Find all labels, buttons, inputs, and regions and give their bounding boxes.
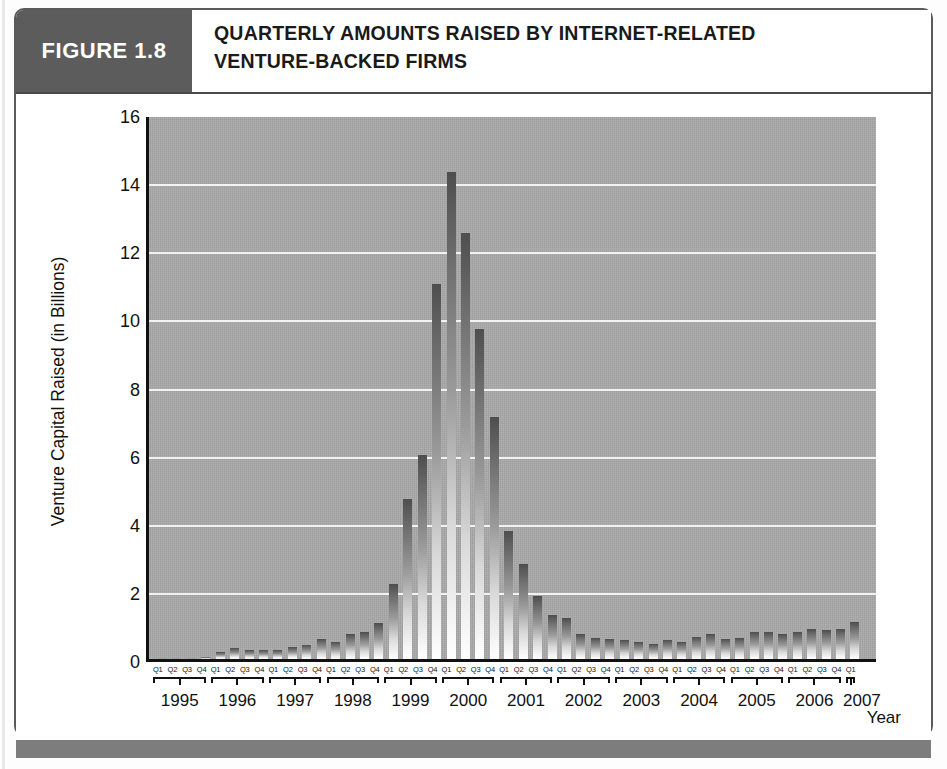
quarter-label: Q2 bbox=[165, 665, 180, 676]
quarter-label: Q3 bbox=[584, 665, 599, 676]
year-group-2007: Q12007 bbox=[843, 665, 858, 711]
bar bbox=[216, 652, 225, 659]
figure-title-line-1: QUARTERLY AMOUNTS RAISED BY INTERNET-REL… bbox=[214, 19, 917, 47]
year-label: 2000 bbox=[439, 691, 497, 711]
quarter-label: Q1 bbox=[381, 665, 396, 676]
quarter-label: Q1 bbox=[612, 665, 627, 676]
quarter-label: Q2 bbox=[338, 665, 353, 676]
year-label: 2003 bbox=[612, 691, 670, 711]
figure-page: FIGURE 1.8 QUARTERLY AMOUNTS RAISED BY I… bbox=[0, 0, 947, 769]
quarter-label: Q4 bbox=[483, 665, 498, 676]
year-brace bbox=[208, 677, 266, 687]
quarter-label: Q3 bbox=[699, 665, 714, 676]
bar bbox=[403, 499, 412, 659]
bar bbox=[692, 637, 701, 659]
bars-layer bbox=[149, 117, 876, 659]
bar bbox=[447, 172, 456, 659]
y-axis-tick-label: 8 bbox=[104, 379, 140, 400]
year-brace bbox=[554, 677, 612, 687]
quarter-label: Q2 bbox=[800, 665, 815, 676]
bar bbox=[764, 632, 773, 659]
quarter-label: Q4 bbox=[425, 665, 440, 676]
quarter-label: Q4 bbox=[367, 665, 382, 676]
y-axis-tick-label: 4 bbox=[104, 515, 140, 536]
y-axis-tick-labels: 0246810121416 bbox=[96, 117, 140, 662]
bar bbox=[721, 639, 730, 659]
year-brace bbox=[324, 677, 382, 687]
quarter-label: Q2 bbox=[742, 665, 757, 676]
x-axis-title: Year bbox=[867, 708, 901, 728]
bar bbox=[187, 658, 196, 659]
y-axis-tick-label: 6 bbox=[104, 447, 140, 468]
bar bbox=[504, 531, 513, 659]
year-label: 2002 bbox=[554, 691, 612, 711]
quarter-label: Q2 bbox=[454, 665, 469, 676]
bar bbox=[317, 639, 326, 659]
quarter-label: Q1 bbox=[324, 665, 339, 676]
year-label: 2004 bbox=[670, 691, 728, 711]
year-group-2006: Q1Q2Q3Q42006 bbox=[785, 665, 843, 711]
year-group-1999: Q1Q2Q3Q41999 bbox=[381, 665, 439, 711]
year-label: 1998 bbox=[324, 691, 382, 711]
quarter-label: Q1 bbox=[785, 665, 800, 676]
quarter-label: Q4 bbox=[656, 665, 671, 676]
quarter-label: Q2 bbox=[223, 665, 238, 676]
y-axis-tick-label: 16 bbox=[104, 107, 140, 128]
plot-area bbox=[146, 117, 876, 662]
quarter-label-row: Q1Q2Q3Q4 bbox=[381, 665, 439, 676]
year-brace bbox=[670, 677, 728, 687]
quarter-label: Q1 bbox=[728, 665, 743, 676]
bar bbox=[158, 658, 167, 659]
quarter-label: Q4 bbox=[252, 665, 267, 676]
year-group-2005: Q1Q2Q3Q42005 bbox=[728, 665, 786, 711]
quarter-label: Q2 bbox=[569, 665, 584, 676]
bar bbox=[591, 638, 600, 659]
quarter-label-row: Q1Q2Q3Q4 bbox=[208, 665, 266, 676]
year-label: 1995 bbox=[150, 691, 208, 711]
quarter-label-row: Q1Q2Q3Q4 bbox=[612, 665, 670, 676]
bar bbox=[750, 632, 759, 659]
bar bbox=[663, 640, 672, 659]
bar bbox=[822, 630, 831, 659]
quarter-label: Q4 bbox=[829, 665, 844, 676]
year-group-2002: Q1Q2Q3Q42002 bbox=[554, 665, 612, 711]
bar bbox=[605, 639, 614, 659]
quarter-label: Q1 bbox=[497, 665, 512, 676]
year-brace bbox=[612, 677, 670, 687]
quarter-label-row: Q1Q2Q3Q4 bbox=[324, 665, 382, 676]
year-brace bbox=[728, 677, 786, 687]
y-axis-tick-label: 0 bbox=[104, 652, 140, 673]
year-label: 2001 bbox=[497, 691, 555, 711]
quarter-label: Q3 bbox=[180, 665, 195, 676]
year-label: 2005 bbox=[728, 691, 786, 711]
year-group-1996: Q1Q2Q3Q41996 bbox=[208, 665, 266, 711]
bar bbox=[461, 233, 470, 659]
quarter-label: Q2 bbox=[511, 665, 526, 676]
year-brace bbox=[497, 677, 555, 687]
quarter-label: Q4 bbox=[541, 665, 556, 676]
bar bbox=[432, 284, 441, 659]
bar bbox=[245, 650, 254, 659]
year-label: 2006 bbox=[785, 691, 843, 711]
year-group-2003: Q1Q2Q3Q42003 bbox=[612, 665, 670, 711]
quarter-label: Q3 bbox=[295, 665, 310, 676]
bar bbox=[302, 645, 311, 659]
bar bbox=[562, 618, 571, 659]
bar bbox=[490, 417, 499, 659]
bar bbox=[533, 596, 542, 659]
quarter-label: Q2 bbox=[684, 665, 699, 676]
figure-number-badge: FIGURE 1.8 bbox=[16, 10, 192, 92]
figure-header: FIGURE 1.8 QUARTERLY AMOUNTS RAISED BY I… bbox=[16, 10, 931, 92]
bar bbox=[360, 632, 369, 659]
bar bbox=[475, 329, 484, 659]
bar bbox=[418, 455, 427, 659]
year-group-1995: Q1Q2Q3Q41995 bbox=[150, 665, 208, 711]
bar bbox=[850, 622, 859, 659]
bar bbox=[807, 629, 816, 659]
year-label: 2007 bbox=[843, 691, 858, 711]
y-axis-tick-label: 12 bbox=[104, 243, 140, 264]
quarter-label: Q4 bbox=[714, 665, 729, 676]
bar bbox=[172, 658, 181, 659]
bar bbox=[677, 642, 686, 659]
quarter-label: Q3 bbox=[237, 665, 252, 676]
